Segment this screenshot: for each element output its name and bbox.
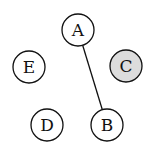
node-label: C (119, 56, 132, 76)
node-label: D (40, 115, 54, 135)
node-label: B (101, 115, 114, 135)
node-b: B (91, 109, 123, 141)
node-a: A (62, 14, 94, 46)
node-label: E (23, 57, 35, 77)
graph-diagram: ABCDE (0, 0, 153, 154)
edge-a-b (83, 45, 103, 109)
node-label: A (71, 20, 85, 40)
node-d: D (31, 109, 63, 141)
nodes-layer: ABCDE (13, 14, 142, 141)
node-c: C (110, 50, 142, 82)
node-e: E (13, 51, 45, 83)
edges-layer (83, 45, 103, 109)
